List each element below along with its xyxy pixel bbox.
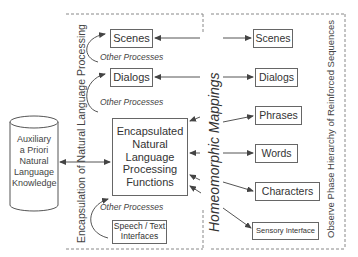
right-characters-box: Characters [255, 182, 320, 201]
left-dialogs-box: Dialogs [110, 68, 153, 87]
right-scenes-box: Scenes [253, 29, 293, 48]
right-phrases-box: Phrases [255, 106, 302, 125]
knowledge-line: Language [12, 167, 56, 178]
other-processes-label-2: Other Processes [100, 97, 163, 107]
core-line: Encapsulated [117, 125, 184, 138]
homeomorphic-mappings-label: Homeomorphic Mappings [206, 72, 222, 232]
knowledge-line: a Priori [12, 145, 56, 156]
speech-line: Interfaces [121, 232, 158, 242]
right-sensory-interface-box: Sensory Interface [252, 222, 319, 240]
speech-text-interfaces-box: Speech / Text Interfaces [112, 220, 167, 244]
encapsulation-label: Encapsulation of Natural Language Proces… [75, 24, 87, 243]
knowledge-line: Auxiliary [12, 134, 56, 145]
core-line: Language [126, 151, 175, 164]
knowledge-line: Knowledge [12, 178, 56, 189]
other-processes-label-1: Other Processes [100, 52, 163, 62]
knowledge-line: Natural [12, 156, 56, 167]
core-line: Functions [126, 176, 174, 189]
other-processes-label-3: Other Processes [100, 202, 163, 212]
observe-phase-hierarchy-label: Observe Phase Hierarchy of Reinforced Se… [325, 20, 336, 238]
left-scenes-box: Scenes [110, 29, 153, 48]
encapsulated-nlp-functions-box: Encapsulated Natural Language Processing… [112, 118, 188, 196]
right-dialogs-box: Dialogs [255, 68, 298, 87]
core-line: Natural [132, 138, 167, 151]
core-line: Processing [123, 163, 177, 176]
right-words-box: Words [255, 144, 298, 163]
knowledge-store: Auxiliary a Priori Natural Language Know… [12, 134, 56, 189]
